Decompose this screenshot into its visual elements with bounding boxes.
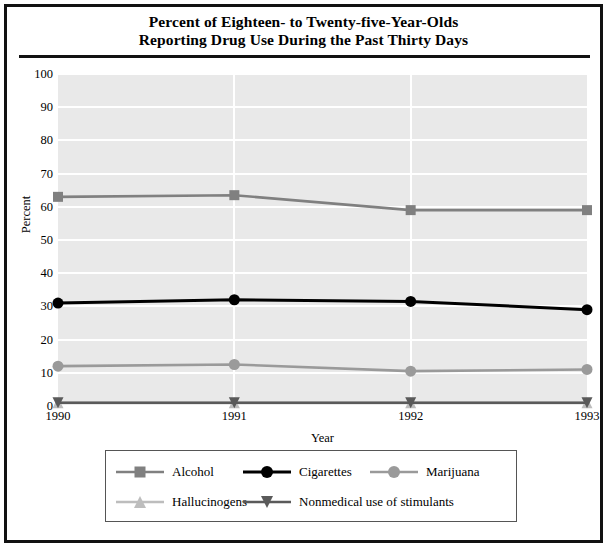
legend-marker-triangle-down-icon <box>241 493 293 511</box>
y-tick-label: 100 <box>9 67 53 82</box>
series-line <box>58 300 587 310</box>
legend-label: Nonmedical use of stimulants <box>299 494 454 510</box>
data-point <box>53 192 63 202</box>
y-tick-label: 10 <box>9 365 53 380</box>
title-divider <box>19 55 590 58</box>
legend-marker-circle-icon <box>241 463 293 481</box>
chart-legend: AlcoholCigarettesMarijuana Hallucinogens… <box>105 450 517 522</box>
x-axis-ticks: 1990199119921993 <box>58 409 587 429</box>
y-tick-label: 90 <box>9 100 53 115</box>
series-line <box>58 195 587 210</box>
series-layer <box>58 74 587 406</box>
y-tick-label: 60 <box>9 199 53 214</box>
x-axis-label: Year <box>58 431 587 446</box>
legend-entry[interactable]: Alcohol <box>114 463 214 481</box>
legend-row: AlcoholCigarettesMarijuana <box>106 457 516 487</box>
chart-title-line-1: Percent of Eighteen- to Twenty-five-Year… <box>7 13 600 31</box>
data-point <box>405 366 416 377</box>
legend-entry[interactable]: Marijuana <box>368 463 479 481</box>
y-axis-ticks: 0102030405060708090100 <box>7 74 53 406</box>
legend-marker-triangle-up-icon <box>114 493 166 511</box>
y-tick-label: 50 <box>9 233 53 248</box>
legend-label: Hallucinogens <box>172 494 247 510</box>
legend-label: Marijuana <box>426 464 479 480</box>
x-tick-label: 1990 <box>28 409 88 424</box>
legend-marker-square-icon <box>114 463 166 481</box>
data-point <box>229 294 240 305</box>
x-tick-label: 1992 <box>381 409 441 424</box>
series-line <box>58 365 587 372</box>
data-point <box>229 359 240 370</box>
y-tick-label: 70 <box>9 166 53 181</box>
y-tick-label: 20 <box>9 332 53 347</box>
chart-title-line-2: Reporting Drug Use During the Past Thirt… <box>7 31 600 49</box>
series-alcohol <box>53 190 592 215</box>
legend-label: Cigarettes <box>299 464 352 480</box>
x-tick-label: 1993 <box>557 409 611 424</box>
legend-entry[interactable]: Nonmedical use of stimulants <box>241 493 454 511</box>
y-tick-label: 30 <box>9 299 53 314</box>
data-point <box>53 361 64 372</box>
y-tick-label: 40 <box>9 266 53 281</box>
series-cigarettes <box>53 294 593 315</box>
y-tick-label: 80 <box>9 133 53 148</box>
legend-entry[interactable]: Cigarettes <box>241 463 352 481</box>
data-point <box>582 304 593 315</box>
chart-figure: Percent of Eighteen- to Twenty-five-Year… <box>4 4 603 543</box>
data-point <box>405 296 416 307</box>
data-point <box>582 364 593 375</box>
chart-title: Percent of Eighteen- to Twenty-five-Year… <box>7 7 600 49</box>
legend-entry[interactable]: Hallucinogens <box>114 493 247 511</box>
data-point <box>406 205 416 215</box>
data-point <box>582 205 592 215</box>
legend-label: Alcohol <box>172 464 214 480</box>
data-point <box>229 190 239 200</box>
series-marijuana <box>53 359 593 377</box>
legend-row: HallucinogensNonmedical use of stimulant… <box>106 487 516 517</box>
plot-wrapper: Percent 0102030405060708090100 199019911… <box>7 59 600 419</box>
legend-marker-circle-icon <box>368 463 420 481</box>
x-tick-label: 1991 <box>204 409 264 424</box>
data-point <box>53 298 64 309</box>
